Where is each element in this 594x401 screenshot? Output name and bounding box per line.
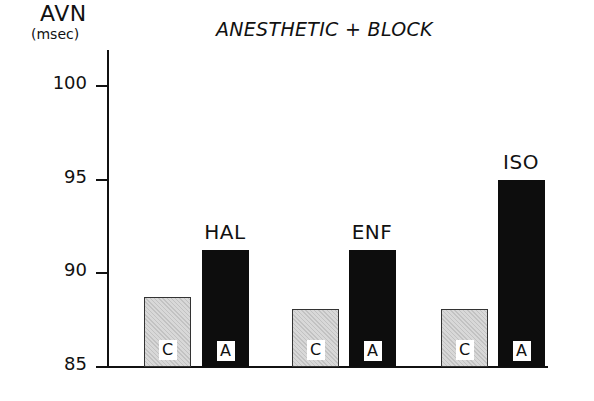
- bar-label-a: A: [217, 341, 235, 361]
- bar-label-c: C: [307, 340, 325, 360]
- group-label-enf: ENF: [332, 220, 412, 244]
- y-tick-95: [96, 179, 107, 181]
- y-tick-label-90: 90: [37, 259, 87, 280]
- bar-enf-control: C: [292, 309, 339, 367]
- bar-hal-anesthetic: A: [202, 250, 249, 367]
- y-tick-100: [96, 85, 107, 87]
- y-tick-label-85: 85: [37, 353, 87, 374]
- chart-title: ANESTHETIC + BLOCK: [216, 18, 433, 40]
- y-axis-title: AVN: [40, 1, 87, 26]
- bar-iso-control: C: [441, 309, 488, 367]
- bar-hal-control: C: [144, 297, 191, 367]
- y-tick-label-100: 100: [37, 72, 87, 93]
- bar-iso-anesthetic: A: [498, 180, 545, 367]
- y-tick-90: [96, 272, 107, 274]
- bar-label-c: C: [159, 340, 177, 360]
- bar-enf-anesthetic: A: [349, 250, 396, 367]
- group-label-iso: ISO: [481, 150, 561, 174]
- bar-label-c: C: [456, 340, 474, 360]
- y-axis-line: [107, 50, 109, 367]
- bar-label-a: A: [513, 341, 531, 361]
- bar-label-a: A: [364, 341, 382, 361]
- y-tick-label-95: 95: [37, 166, 87, 187]
- group-label-hal: HAL: [185, 220, 265, 244]
- y-axis-unit: (msec): [31, 26, 79, 42]
